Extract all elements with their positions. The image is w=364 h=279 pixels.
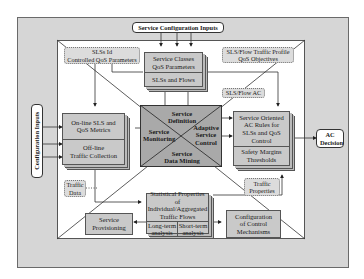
label: Data <box>69 189 81 196</box>
label: Properties <box>249 187 275 194</box>
short-term-analysis: Short-termanalysis <box>178 222 208 237</box>
service-provisioning: Service Provisioning <box>85 213 133 235</box>
label: Control <box>239 137 284 145</box>
label: SLS/Flow Traffic Profile <box>227 48 290 55</box>
label: QoS Metrics <box>71 126 115 134</box>
label: Traffic <box>253 180 270 187</box>
statistical-properties-box: Statistical Properties of Individual/Agg… <box>146 193 209 234</box>
ac-decision-label: AC Decision <box>320 131 340 146</box>
traffic-profile-qos-objectives: SLS/Flow Traffic Profile QoS Objectives <box>222 47 294 63</box>
service-configuration-inputs: Service Configuration Inputs <box>132 22 224 33</box>
label: Configuration <box>235 213 272 221</box>
label: Traffic <box>66 181 83 188</box>
sls-flow-ac: SLS/Flow AC <box>222 88 265 98</box>
service-classes-section: Service Classes QoS Parameters <box>152 53 195 72</box>
slss-controlled-qos-parameters: SLSs Id Controlled QoS Parameters <box>64 47 140 64</box>
label: Off-line <box>63 144 124 152</box>
traffic-data: Traffic Data <box>64 180 86 197</box>
label: AC Rules for <box>239 121 284 129</box>
service-data-mining: ServiceData Mining <box>161 150 203 165</box>
ac-decision: AC Decision <box>316 129 344 148</box>
label: SLSs and Flows <box>152 76 195 84</box>
label: On-line SLS and <box>71 119 115 127</box>
configuration-inputs-label: Configuration Inputs <box>33 112 40 170</box>
label: Service <box>99 216 119 224</box>
configuration-inputs: Configuration Inputs <box>31 104 43 178</box>
ac-rules-box: Service Oriented AC Rules for SLSs and Q… <box>233 111 290 166</box>
long-term-analysis: Long-termanalysis <box>147 222 178 237</box>
online-offline-box: On-line SLS and QoS Metrics Off-line Tra… <box>62 113 125 165</box>
slss-and-flows-section: SLSs and Flows <box>145 72 202 86</box>
configuration-of-control-mechanisms: Configuration of Control Mechanisms <box>226 210 281 238</box>
label: SLSs and QoS <box>239 129 284 137</box>
center-core-box: ServiceDefinition ServiceMonitoring Adap… <box>140 105 222 167</box>
label: Thresholds <box>234 156 289 164</box>
statistical-properties-section: Statistical Properties of Individual/Agg… <box>147 190 208 220</box>
label: Individual/Aggregated <box>147 205 208 213</box>
label: Traffic Flows <box>147 213 208 221</box>
label: Statistical Properties of <box>147 190 208 205</box>
label: Safety Margins <box>234 148 289 156</box>
analysis-row: Long-termanalysis Short-termanalysis <box>147 221 208 237</box>
traffic-properties: Traffic Properties <box>244 178 280 196</box>
label: of Control <box>240 220 267 228</box>
ac-rules-section: Service Oriented AC Rules for SLSs and Q… <box>239 112 284 146</box>
label: Controlled QoS Parameters <box>67 56 136 63</box>
service-monitoring: ServiceMonitoring <box>143 128 175 143</box>
safety-margins-section: Safety Margins Thresholds <box>234 146 289 165</box>
label: Service Classes <box>152 55 195 63</box>
online-metrics-section: On-line SLS and QoS Metrics <box>71 114 115 139</box>
service-classes-box: Service Classes QoS Parameters SLSs and … <box>144 52 203 87</box>
label: QoS Objectives <box>238 55 278 62</box>
offline-collection-section: Off-line Traffic Collection <box>63 139 124 165</box>
label: QoS Parameters <box>152 63 195 71</box>
label: Mechanisms <box>237 228 270 236</box>
label: Service Oriented <box>239 114 284 122</box>
service-definition: ServiceDefinition <box>163 110 201 125</box>
label: SLSs Id <box>92 48 112 55</box>
adaptive-service-control: AdaptiveServiceControl <box>189 124 223 146</box>
label: Provisioning <box>92 224 126 232</box>
label: Traffic Collection <box>63 152 124 160</box>
